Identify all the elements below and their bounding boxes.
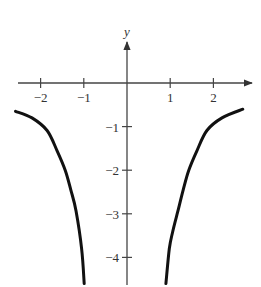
y-tick-label: −4 <box>105 250 119 265</box>
x-tick-label: 2 <box>210 90 217 105</box>
x-tick-label: −2 <box>34 90 48 105</box>
y-axis-ticks: −1−2−3−4 <box>105 120 132 266</box>
y-tick-label: −1 <box>105 120 119 135</box>
curve-right-branch <box>166 109 243 283</box>
x-axis-ticks: −2−112 <box>34 78 217 105</box>
y-axis-label: y <box>122 24 130 39</box>
x-tick-label: 1 <box>167 90 174 105</box>
curve-left-branch <box>16 111 85 283</box>
y-tick-label: −3 <box>105 207 119 222</box>
graph-plot: −2−112 −1−2−3−4 y <box>0 0 261 287</box>
x-tick-label: −1 <box>77 90 91 105</box>
y-tick-label: −2 <box>105 163 119 178</box>
